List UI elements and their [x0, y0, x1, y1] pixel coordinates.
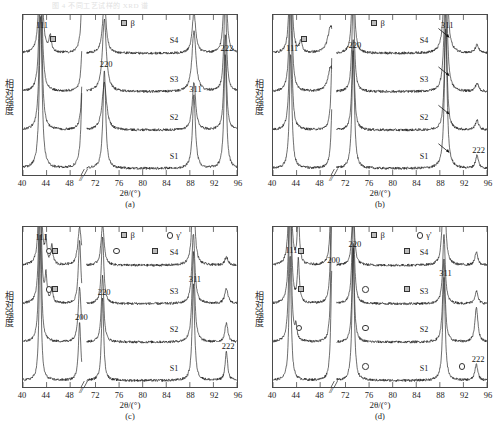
plot-area-d: βγ'S1S2S3S4111200220311222	[272, 226, 488, 388]
x-tick-72: 72	[91, 178, 100, 188]
x-axis-label-c: 2θ/(°)	[22, 400, 238, 410]
curve-label-s1: S1	[420, 153, 428, 161]
peak-label-311: 311	[439, 269, 451, 278]
xrd-curve-s2	[87, 35, 237, 131]
beta-marker-icon	[404, 286, 410, 292]
axis-break-symbol: //	[329, 173, 332, 183]
peak-label-220: 220	[348, 240, 361, 249]
xrd-curve-s4	[23, 15, 82, 53]
axis-break-symbol: //	[79, 385, 82, 395]
peak-label-222: 222	[221, 44, 234, 53]
panel-d: 相对强度 βγ'S1S2S3S4111200220311222 40444872…	[250, 222, 500, 437]
x-tick-88: 88	[186, 390, 195, 400]
panel-caption-a: (a)	[22, 199, 238, 209]
x-tick-40: 40	[18, 390, 27, 400]
panel-caption-c: (c)	[22, 411, 238, 421]
beta-marker-icon	[301, 36, 307, 42]
legend-label-beta: β	[130, 231, 134, 240]
curve-label-s1: S1	[420, 365, 428, 373]
beta-marker-icon	[52, 286, 58, 292]
xrd-curve-s1	[273, 256, 332, 381]
beta-marker-icon	[52, 248, 58, 254]
panel-caption-d: (d)	[272, 411, 488, 421]
x-tick-84: 84	[412, 178, 421, 188]
x-tick-44: 44	[292, 178, 301, 188]
legend-d: βγ'	[371, 231, 431, 240]
x-axis-label-a: 2θ/(°)	[22, 188, 238, 198]
xrd-curve-s3	[23, 15, 82, 92]
xrd-curve-s1	[87, 284, 237, 382]
gamma-prime-marker-icon	[362, 363, 369, 370]
x-tick-88: 88	[436, 390, 445, 400]
plot-area-b: βS1S2S3S4111200220311222	[272, 14, 488, 176]
curve-label-s2: S2	[170, 326, 178, 334]
x-tick-72: 72	[341, 390, 350, 400]
x-tick-88: 88	[436, 178, 445, 188]
x-tick-76: 76	[365, 390, 374, 400]
gamma-prime-marker-icon	[459, 363, 466, 370]
peak-label-200: 200	[75, 313, 88, 322]
axis-break-symbol: //	[79, 173, 82, 183]
curve-label-s1: S1	[170, 365, 178, 373]
gamma-prime-marker-icon	[167, 232, 174, 239]
curve-label-s3: S3	[170, 288, 178, 296]
peak-label-220: 220	[348, 41, 361, 50]
x-tick-92: 92	[210, 390, 219, 400]
curve-label-s1: S1	[170, 153, 178, 161]
plot-area-c: βγ'S1S2S3S4111200220311222	[22, 226, 238, 388]
legend-label-gamma-prime: γ'	[176, 231, 181, 240]
xrd-curve-s1	[23, 235, 82, 381]
beta-marker-icon	[371, 232, 377, 238]
x-tick-76: 76	[115, 178, 124, 188]
legend-b: β	[371, 19, 384, 28]
curve-label-s2: S2	[170, 114, 178, 122]
x-tick-96: 96	[484, 390, 493, 400]
beta-marker-icon	[404, 248, 410, 254]
xrd-curve-s4	[23, 227, 82, 265]
x-tick-84: 84	[162, 178, 171, 188]
x-tick-40: 40	[268, 178, 277, 188]
x-tick-96: 96	[234, 178, 243, 188]
x-tick-76: 76	[365, 178, 374, 188]
x-tick-40: 40	[268, 390, 277, 400]
xrd-curve-s1	[337, 248, 487, 381]
curve-label-s4: S4	[170, 249, 178, 257]
beta-marker-icon	[298, 248, 304, 254]
x-tick-80: 80	[389, 178, 398, 188]
y-axis-label-b: 相对强度	[252, 52, 265, 142]
peak-label-111: 111	[35, 233, 47, 242]
xrd-curve-s3	[337, 15, 487, 93]
y-axis-label-c: 相对强度	[2, 264, 15, 354]
x-tick-72: 72	[341, 178, 350, 188]
legend-label-beta: β	[380, 231, 384, 240]
x-axis-label-b: 2θ/(°)	[272, 188, 488, 198]
gamma-prime-marker-icon	[417, 232, 424, 239]
xrd-curve-s3	[273, 227, 332, 304]
plot-area-a: βS1S2S3S4111200220311222	[22, 14, 238, 176]
peak-label-222: 222	[222, 342, 235, 351]
axis-break-symbol: //	[329, 385, 332, 395]
beta-marker-icon	[298, 286, 304, 292]
figure-xrd-patterns: 图 4 不同工艺试样的 XRD 谱 相对强度 βS1S2S3S411120022…	[0, 0, 501, 437]
x-tick-80: 80	[389, 390, 398, 400]
peak-label-311: 311	[189, 275, 201, 284]
beta-marker-icon	[121, 232, 127, 238]
x-tick-44: 44	[292, 390, 301, 400]
xrd-curve-s4	[273, 15, 332, 53]
x-tick-88: 88	[186, 178, 195, 188]
legend-c: βγ'	[121, 231, 181, 240]
curve-label-s2: S2	[420, 326, 428, 334]
y-axis-label-d: 相对强度	[252, 264, 265, 354]
x-tick-96: 96	[234, 390, 243, 400]
peak-label-222: 222	[472, 146, 485, 155]
beta-marker-icon	[121, 20, 127, 26]
x-tick-92: 92	[460, 178, 469, 188]
xrd-curve-s3	[23, 227, 82, 304]
figure-top-caption: 图 4 不同工艺试样的 XRD 谱	[52, 0, 202, 9]
gamma-prime-marker-icon	[113, 248, 120, 255]
x-tick-72: 72	[91, 390, 100, 400]
xrd-curve-s2	[273, 227, 332, 342]
x-tick-48: 48	[65, 390, 74, 400]
legend-label-gamma-prime: γ'	[426, 231, 431, 240]
xrd-curve-s1	[337, 29, 487, 170]
